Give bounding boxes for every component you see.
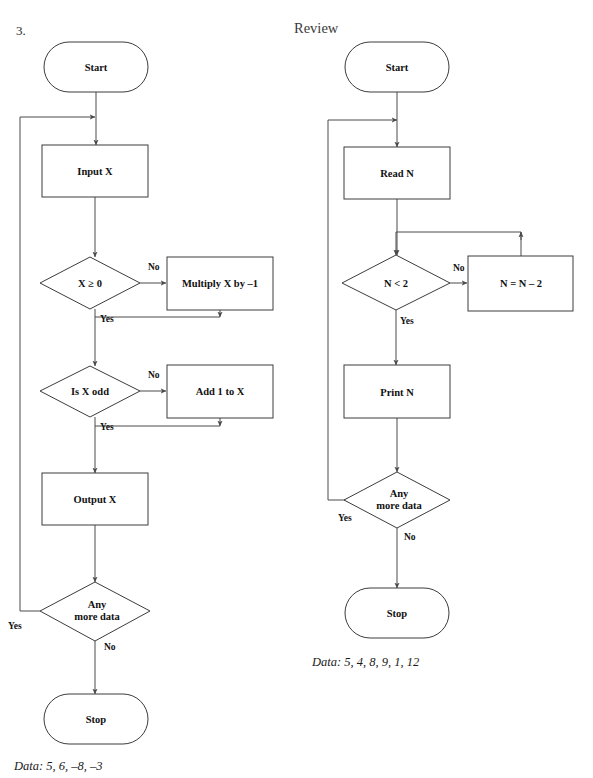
node-label: Multiply X by –1 xyxy=(182,278,258,289)
node-label: Start xyxy=(386,62,409,73)
question-number: 3. xyxy=(16,23,26,38)
branch-label-yes: Yes xyxy=(100,422,114,432)
right-nodes: Start Read N N < 2 N = N – 2 Print N Any xyxy=(342,42,573,638)
section-title: Review xyxy=(294,20,339,36)
right-caption: Data: 5, 4, 8, 9, 1, 12 xyxy=(311,655,419,669)
node-input-x[interactable]: Input X xyxy=(42,145,148,197)
branch-label-yes: Yes xyxy=(100,314,114,324)
node-label: N = N – 2 xyxy=(500,278,542,289)
left-nodes: Start Input X X ≥ 0 Multiply X by –1 Is … xyxy=(40,42,273,744)
node-read-n[interactable]: Read N xyxy=(344,147,450,199)
node-label: Output X xyxy=(74,494,117,505)
branch-label-no: No xyxy=(104,642,116,652)
node-stop[interactable]: Stop xyxy=(44,694,148,744)
right-flowchart: Start Read N N < 2 N = N – 2 Print N Any xyxy=(311,42,573,669)
node-n-lt-2[interactable]: N < 2 xyxy=(342,255,450,310)
branch-label-no: No xyxy=(148,370,160,380)
node-label: Add 1 to X xyxy=(196,386,245,397)
node-label: Input X xyxy=(77,166,113,177)
node-any-more-data[interactable]: Any more data xyxy=(40,582,150,641)
node-multiply-x[interactable]: Multiply X by –1 xyxy=(167,257,273,310)
branch-label-yes: Yes xyxy=(338,513,352,523)
branch-label-yes: Yes xyxy=(8,621,22,631)
node-label-line1: Any xyxy=(390,488,409,499)
branch-label-no: No xyxy=(453,263,465,273)
node-label: X ≥ 0 xyxy=(78,278,102,289)
node-label: Print N xyxy=(380,387,414,398)
node-label-line1: Any xyxy=(88,599,107,610)
node-stop[interactable]: Stop xyxy=(345,588,449,638)
node-label-line2: more data xyxy=(74,611,120,622)
node-label: N < 2 xyxy=(384,278,408,289)
node-x-ge-0[interactable]: X ≥ 0 xyxy=(40,257,140,309)
node-label: Is X odd xyxy=(71,386,109,397)
connector-decrement-loop xyxy=(396,232,521,256)
node-start[interactable]: Start xyxy=(44,42,148,92)
branch-label-yes: Yes xyxy=(400,316,414,326)
node-print-n[interactable]: Print N xyxy=(344,365,450,418)
node-is-x-odd[interactable]: Is X odd xyxy=(40,366,140,417)
node-any-more-data[interactable]: Any more data xyxy=(344,472,450,528)
node-start[interactable]: Start xyxy=(345,42,449,92)
branch-label-no: No xyxy=(404,532,416,542)
node-label: Stop xyxy=(86,714,107,725)
node-label: Read N xyxy=(380,168,414,179)
flowchart-page: 3. Review xyxy=(0,0,593,778)
node-n-equals-n-minus-2[interactable]: N = N – 2 xyxy=(468,256,573,311)
node-output-x[interactable]: Output X xyxy=(42,473,148,525)
branch-label-no: No xyxy=(148,262,160,272)
left-flowchart: Start Input X X ≥ 0 Multiply X by –1 Is … xyxy=(8,42,273,773)
node-label-line2: more data xyxy=(376,500,422,511)
flowchart-canvas: 3. Review xyxy=(0,0,593,778)
left-caption: Data: 5, 6, –8, –3 xyxy=(13,759,103,773)
node-label: Stop xyxy=(387,608,408,619)
node-add-1-to-x[interactable]: Add 1 to X xyxy=(167,365,273,418)
node-label: Start xyxy=(85,62,108,73)
